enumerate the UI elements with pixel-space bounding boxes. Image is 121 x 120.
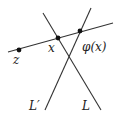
point-x	[56, 36, 61, 41]
label-L-prime: L′	[28, 99, 40, 113]
label-z: z	[12, 53, 20, 67]
diagram-canvas: z x φ(x) L′ L	[0, 0, 121, 120]
point-z	[17, 48, 22, 53]
geometry-diagram: z x φ(x) L′ L	[0, 0, 121, 120]
line-L-prime	[45, 8, 91, 110]
label-phi-x: φ(x)	[82, 40, 107, 54]
label-x: x	[48, 41, 55, 55]
point-phi-x	[78, 29, 83, 34]
label-L: L	[81, 99, 90, 113]
